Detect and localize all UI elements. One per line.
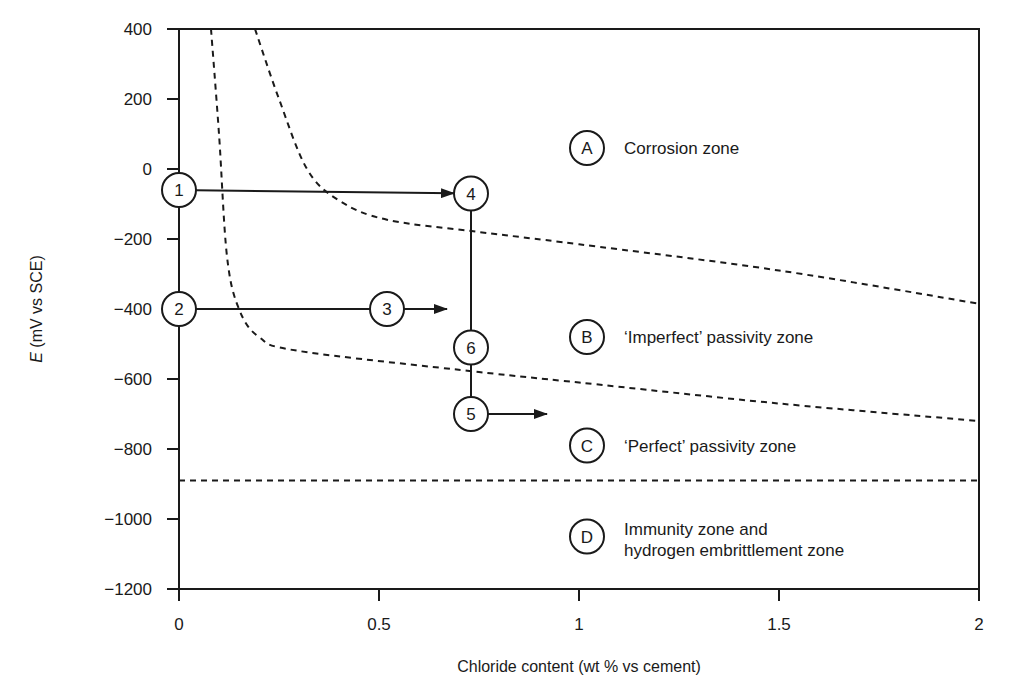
zone-A: ACorrosion zone — [570, 131, 739, 165]
state-label: 6 — [466, 339, 475, 358]
zone-D: DImmunity zone andhydrogen embrittlement… — [570, 520, 844, 560]
state-marker-1: 1 — [162, 173, 196, 207]
state-label: 1 — [174, 181, 183, 200]
zone-letter: C — [581, 437, 593, 456]
x-tick-label: 1.5 — [767, 615, 791, 634]
zone-label: ‘Perfect’ passivity zone — [624, 437, 796, 456]
zone-B: B‘Imperfect’ passivity zone — [570, 320, 813, 354]
y-tick-label: −800 — [114, 440, 152, 459]
x-tick-label: 2 — [974, 615, 983, 634]
zone-label: Immunity zone and — [624, 520, 768, 539]
y-tick-label: 0 — [143, 160, 152, 179]
y-tick-label: 400 — [124, 20, 152, 39]
y-tick-label: −400 — [114, 300, 152, 319]
y-axis-title-symbol: E — [28, 352, 45, 363]
state-label: 4 — [466, 185, 475, 204]
y-axis-title-unit: (mV vs SCE) — [28, 255, 45, 352]
state-paths — [179, 190, 547, 414]
corrosion-zone-chart: 4002000−200−400−600−800−1000−120000.511.… — [0, 0, 1012, 697]
x-tick-label: 1 — [574, 615, 583, 634]
state-marker-5: 5 — [454, 397, 488, 431]
state-marker-2: 2 — [162, 292, 196, 326]
y-axis-title: E (mV vs SCE) — [28, 255, 45, 363]
zone-letter: D — [581, 528, 593, 547]
zone-boundaries — [179, 29, 979, 481]
zone-letter: A — [581, 139, 593, 158]
state-markers: 123456 — [162, 173, 488, 431]
y-tick-label: −600 — [114, 370, 152, 389]
x-tick-label: 0.5 — [367, 615, 391, 634]
y-tick-label: −1200 — [104, 580, 152, 599]
x-axis-title: Chloride content (wt % vs cement) — [457, 658, 701, 675]
boundary-line — [255, 29, 979, 304]
state-label: 5 — [466, 405, 475, 424]
zone-letter: B — [581, 328, 592, 347]
boundary-line — [211, 29, 979, 421]
zone-C: C‘Perfect’ passivity zone — [570, 429, 796, 463]
y-tick-label: 200 — [124, 90, 152, 109]
state-marker-4: 4 — [454, 177, 488, 211]
x-tick-label: 0 — [174, 615, 183, 634]
zone-label: ‘Imperfect’ passivity zone — [624, 328, 813, 347]
y-tick-label: −200 — [114, 230, 152, 249]
state-label: 2 — [174, 300, 183, 319]
state-marker-6: 6 — [454, 331, 488, 365]
axes: 4002000−200−400−600−800−1000−120000.511.… — [104, 20, 983, 634]
state-label: 3 — [382, 300, 391, 319]
y-tick-label: −1000 — [104, 510, 152, 529]
state-marker-3: 3 — [370, 292, 404, 326]
zone-label: Corrosion zone — [624, 139, 739, 158]
zone-labels: ACorrosion zoneB‘Imperfect’ passivity zo… — [570, 131, 844, 560]
zone-label: hydrogen embrittlement zone — [624, 541, 844, 560]
